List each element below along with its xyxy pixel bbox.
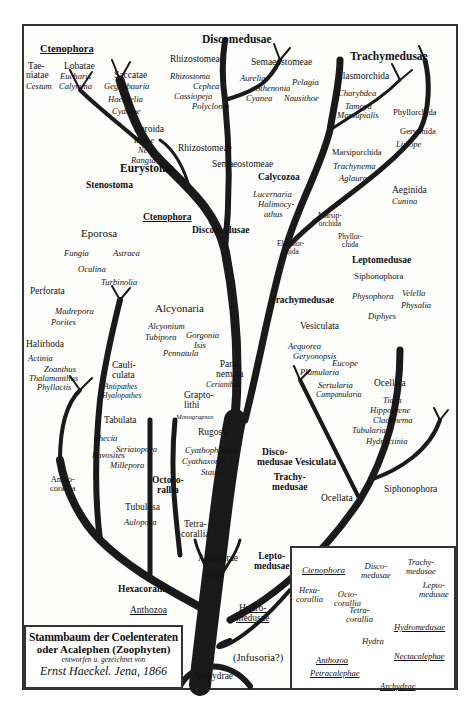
inset-label-petracalephae: Petracalephae xyxy=(310,669,360,678)
group-cauliculata-title-line1: Cauli- xyxy=(112,360,136,370)
taxon-label: Nausithoe xyxy=(284,94,319,103)
taxon-label: Geryonida xyxy=(400,127,436,136)
taxon-label: Aglaura xyxy=(339,174,367,183)
taxon-label: Cyathaxonia xyxy=(182,457,226,466)
branch-stenostoma: Stenostoma xyxy=(86,181,133,191)
branch-ocellata: Ocellata xyxy=(321,494,353,504)
taxon-label: Tubularia xyxy=(352,426,386,435)
taxon-label: Thecia xyxy=(94,434,117,443)
branch-disco-medusae-line1: Disco- xyxy=(262,447,287,457)
group-paranemata-title: Para-nemata xyxy=(216,360,243,379)
taxon-label: Oculina xyxy=(78,265,106,274)
group-calycozoa-title: Calycozoa xyxy=(258,173,300,183)
branch-trachy-medusae-line1: Trachy- xyxy=(274,472,306,482)
taxon-label: Liriope xyxy=(396,140,421,149)
branch-anthocorallia: Antho-corallia xyxy=(50,475,75,492)
taxon-label: Trachynema xyxy=(333,162,376,171)
branch-ctenophora: Ctenophora xyxy=(143,213,192,223)
taxon-label: Beroe xyxy=(134,136,154,145)
taxon-label: Monograpsus xyxy=(176,414,213,421)
taxon-label: Semaeostomeae xyxy=(251,58,312,68)
taxon-label: Cephea xyxy=(193,82,219,91)
branch-semaeostomeae: Semaeostomeae xyxy=(212,160,273,170)
taxon-label: Hydra xyxy=(202,570,224,579)
taxon-label: Elasmorchida xyxy=(337,72,389,82)
taxon-label: Alcyonium xyxy=(148,322,185,331)
taxon-label: Hyalopathes xyxy=(102,392,141,400)
taxon-label: Aurelia xyxy=(240,74,265,83)
taxon-label: Stauria xyxy=(201,468,226,477)
group-archydrae-title: Archydrae xyxy=(198,554,238,564)
title-line-1: Stammbaum der Coelenteraten xyxy=(26,631,181,643)
taxon-label: Aulopora xyxy=(124,518,156,527)
taxon-label: Aeginida xyxy=(392,186,427,196)
title-cartouche: Stammbaum der Coelenteraten oder Acaleph… xyxy=(24,625,183,689)
taxon-label: Hydractinia xyxy=(366,437,408,446)
taxon-label: Diphyes xyxy=(368,312,396,321)
group-leptomedusae-title: Leptomedusae xyxy=(352,256,411,266)
taxon-label: Rhizostoma xyxy=(170,72,210,81)
group-paranemata-title-line1: Para- xyxy=(220,359,240,369)
taxon-label: Gorgonia xyxy=(186,331,219,340)
inset-label-tetracorallia-line2: corallia xyxy=(346,614,373,624)
taxon-label: Tiara xyxy=(383,396,402,405)
branch-octocorallia-line1: Octoco- xyxy=(152,475,184,485)
taxon-label: Antipathes xyxy=(104,383,137,391)
taxon-label: Actinia xyxy=(28,354,53,363)
taxon-label: Cyanea xyxy=(246,94,272,103)
group-rugosa-title: Rugosa xyxy=(198,428,227,438)
taxon-label: Favosites xyxy=(92,451,125,460)
branch-phyllorchida-line2: chida xyxy=(342,240,358,249)
branch-rhizostomeae: Rhizostomeae xyxy=(178,144,232,154)
taxon-label: Lucernaria xyxy=(253,190,292,199)
group-cauliculata-title-line2: culata xyxy=(112,370,135,380)
taxon-label: Pelagia xyxy=(292,78,319,87)
branch-hexacorallia: Hexacorallia xyxy=(118,585,170,595)
taxon-label: Neis xyxy=(138,146,153,155)
taxon-label: Cerianthus xyxy=(206,381,241,389)
group-graptolithi-title: Grapto-lithi xyxy=(184,391,214,410)
branch-octocorallia-line2: rallia xyxy=(157,485,179,495)
taxon-label: Halimocy- xyxy=(258,200,294,209)
branch-hydromedusae-line1: Hydro- xyxy=(239,603,266,613)
taxon-label: Cassiopeja xyxy=(174,92,212,101)
group-perforata-title: Perforata xyxy=(30,287,65,297)
branch-tetracorallia-line2: corallia xyxy=(181,529,209,539)
title-line-3: entworfen u. gezeichnet von xyxy=(26,655,181,664)
author-line: Ernst Haeckel. Jena, 1866 xyxy=(26,664,181,679)
taxon-label: Cunina xyxy=(392,197,417,206)
taxon-label: niatae xyxy=(26,71,49,81)
branch-tetracorallia: Tetra-corallia xyxy=(181,520,209,539)
branch-discomedusae: Discomedusae xyxy=(192,226,250,236)
taxon-label: Porites xyxy=(51,318,76,327)
taxon-label: Phyllorchida xyxy=(393,108,436,117)
taxon-label: Siphonophora xyxy=(354,272,403,281)
branch-phyllorchida: Phyllor-chida xyxy=(338,233,362,248)
taxon-label: Eucharis xyxy=(60,72,91,81)
inset-label-discomedusae: Disco-medusae xyxy=(361,562,391,579)
branch-anthocorallia-line2: corallia xyxy=(50,483,75,493)
branch-leptomedusae-line1: Lepto- xyxy=(258,551,285,561)
branch-trachymedusae: Trachymedusae xyxy=(270,296,334,306)
branch-disco-medusae-line2: medusae xyxy=(257,457,292,467)
branch-infusoria: (Jnfusoria?) xyxy=(233,653,283,664)
inset-label-trachymedusae: Trachy-medusae xyxy=(406,558,436,575)
branch-elasmorchida-line2: chida xyxy=(283,247,299,256)
group-vesiculata-title: Vesiculata xyxy=(300,322,339,332)
group-eporosa-title: Eporosa xyxy=(81,228,117,239)
branch-marsiporchida: Marsip-orchida xyxy=(318,212,342,227)
taxon-label: Sthenonia xyxy=(256,84,290,93)
inset-label-discomedusae-line2: medusae xyxy=(361,570,391,580)
taxon-label: Aequorea xyxy=(288,342,321,351)
inset-label-anthozoa: Anthozoa xyxy=(316,656,348,665)
inset-label-hexacorallia-line2: corallia xyxy=(296,594,323,604)
branch-leptomedusae-line2: medusae xyxy=(254,561,289,571)
inset-label-hexacorallia: Hexa-corallia xyxy=(296,586,323,603)
inset-label-archydrae: Archydrae xyxy=(380,682,416,691)
taxon-label: Rhizostomeae xyxy=(170,55,224,65)
group-tabulata-title: Tabulata xyxy=(104,416,137,426)
branch-vesiculata: Vesiculata xyxy=(295,458,336,468)
taxon-label: Geryonopsis xyxy=(293,352,336,361)
group-tubulosa-title: Tubulosa xyxy=(125,503,160,513)
group-graptolithi-title-line1: Grapto- xyxy=(184,390,214,400)
